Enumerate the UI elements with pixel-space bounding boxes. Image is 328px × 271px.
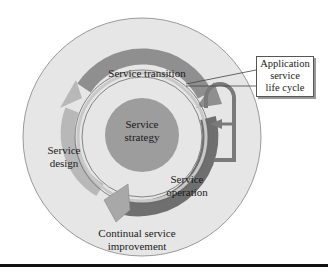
improvement-line1: Continual service bbox=[82, 227, 192, 240]
continual-improvement-label: Continual service improvement bbox=[82, 227, 192, 252]
application-lifecycle-callout: Application service life cycle bbox=[256, 56, 314, 97]
service-transition-label: Service transition bbox=[92, 67, 202, 80]
service-operation-label: Service operation bbox=[162, 173, 212, 198]
design-line1: Service bbox=[44, 144, 84, 157]
operation-line1: Service bbox=[162, 173, 212, 186]
callout-line1: Application bbox=[257, 58, 313, 70]
improvement-line2: improvement bbox=[82, 240, 192, 253]
service-strategy-label: Service strategy bbox=[112, 118, 172, 143]
callout-line3: life cycle bbox=[257, 82, 313, 94]
operation-line2: operation bbox=[162, 186, 212, 199]
callout-line2: service bbox=[257, 70, 313, 82]
strategy-line1: Service bbox=[112, 118, 172, 131]
strategy-line2: strategy bbox=[112, 131, 172, 144]
design-line2: design bbox=[44, 157, 84, 170]
service-design-label: Service design bbox=[44, 144, 84, 169]
bottom-divider bbox=[0, 264, 328, 267]
